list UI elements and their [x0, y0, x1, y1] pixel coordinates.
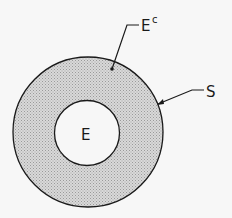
- venn-diagram: E E c S: [0, 0, 232, 218]
- sample-space-label: S: [206, 83, 216, 101]
- s-leader-arrowhead: [157, 99, 164, 105]
- complement-superscript: c: [152, 14, 158, 25]
- event-e-label: E: [81, 126, 90, 144]
- s-leader-line: [158, 90, 204, 104]
- diagram-svg: E E c S: [0, 0, 232, 218]
- complement-label: E: [141, 17, 150, 35]
- ec-leader-dot: [110, 67, 114, 71]
